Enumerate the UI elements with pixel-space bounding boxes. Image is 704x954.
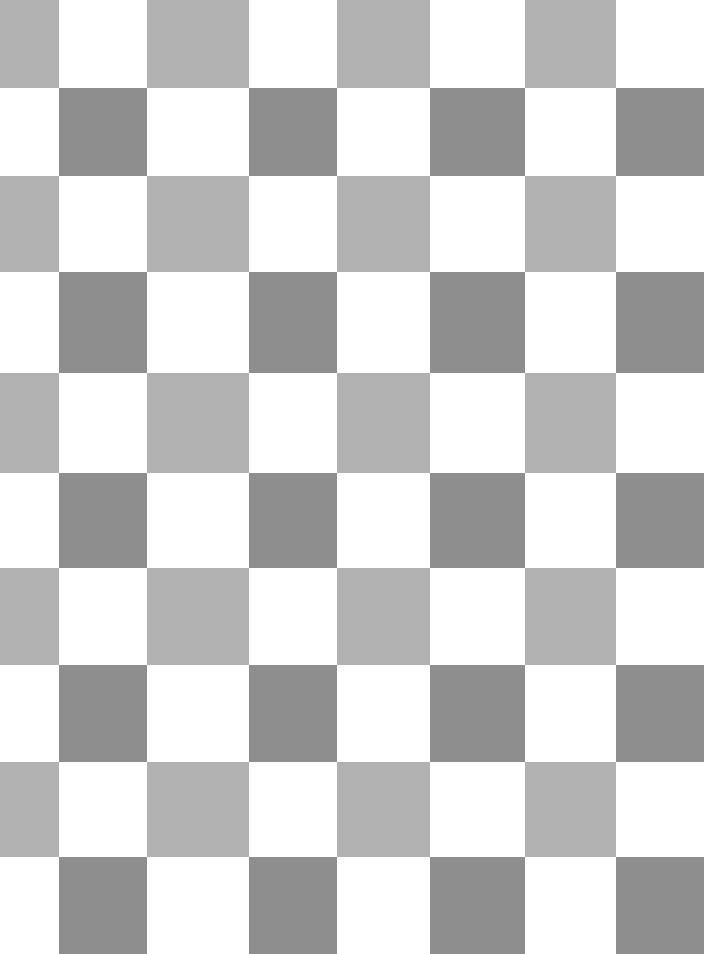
checker-cell-r1-c1: [59, 88, 147, 176]
checker-cell-r3-c5: [430, 272, 525, 373]
checker-cell-r8-c0: [0, 762, 59, 857]
checker-cell-r1-c5: [430, 88, 525, 176]
checker-cell-r7-c5: [430, 665, 525, 762]
checker-cell-r0-c2: [147, 0, 249, 88]
checker-cell-r5-c5: [430, 473, 525, 568]
checker-cell-r4-c6: [525, 373, 616, 473]
checker-cell-r0-c4: [337, 0, 430, 88]
checker-cell-r7-c3: [249, 665, 337, 762]
checker-cell-r3-c3: [249, 272, 337, 373]
checker-cell-r6-c6: [525, 568, 616, 665]
checkerboard-canvas: [0, 0, 704, 954]
checker-cell-r1-c7: [616, 88, 704, 176]
checker-cell-r5-c3: [249, 473, 337, 568]
checker-cell-r7-c7: [616, 665, 704, 762]
checker-cell-r5-c7: [616, 473, 704, 568]
checker-cell-r9-c7: [616, 857, 704, 954]
checker-cell-r8-c2: [147, 762, 249, 857]
checker-cell-r4-c0: [0, 373, 59, 473]
checker-cell-r6-c0: [0, 568, 59, 665]
checker-cell-r4-c2: [147, 373, 249, 473]
checker-cell-r8-c4: [337, 762, 430, 857]
checker-cell-r2-c4: [337, 176, 430, 272]
checker-cell-r0-c0: [0, 0, 59, 88]
checker-cell-r9-c3: [249, 857, 337, 954]
checker-cell-r3-c7: [616, 272, 704, 373]
checker-cell-r6-c4: [337, 568, 430, 665]
checker-cell-r8-c6: [525, 762, 616, 857]
checker-cell-r6-c2: [147, 568, 249, 665]
checker-cell-r2-c0: [0, 176, 59, 272]
checker-cell-r7-c1: [59, 665, 147, 762]
checker-cell-r9-c1: [59, 857, 147, 954]
checker-cell-r0-c6: [525, 0, 616, 88]
checker-cell-r2-c2: [147, 176, 249, 272]
checker-cell-r2-c6: [525, 176, 616, 272]
checker-cell-r4-c4: [337, 373, 430, 473]
checker-cell-r1-c3: [249, 88, 337, 176]
checker-cell-r5-c1: [59, 473, 147, 568]
checker-cell-r9-c5: [430, 857, 525, 954]
checker-cell-r3-c1: [59, 272, 147, 373]
